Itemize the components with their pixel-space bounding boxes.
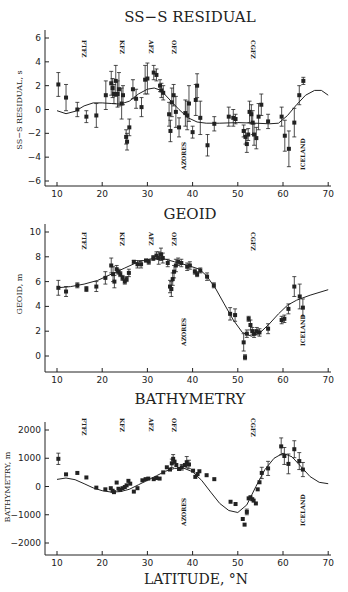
data-point [246, 133, 250, 137]
feature-label: KFZ [119, 418, 126, 432]
data-point [301, 306, 305, 310]
data-point [292, 121, 296, 125]
feature-label: CGFZ [250, 40, 257, 59]
data-point [241, 517, 245, 521]
feature-label: FTFZ [81, 418, 88, 436]
y-axis-label: SS−S RESIDUAL, s [15, 70, 24, 149]
feature-label: OFZ [171, 418, 178, 432]
data-point [292, 447, 296, 451]
data-point [161, 91, 165, 95]
y-tick-label: 0 [35, 351, 41, 361]
data-point [64, 290, 68, 294]
x-tick-label: 50 [232, 558, 244, 568]
feature-label: ICELAND [299, 494, 306, 526]
data-point [179, 261, 183, 265]
feature-label: AZORES [180, 318, 187, 347]
feature-label: CGFZ [250, 232, 257, 251]
x-tick-label: 40 [187, 189, 199, 199]
panel-title: GEOID [163, 205, 216, 223]
data-point [168, 129, 172, 133]
data-point [243, 523, 247, 527]
data-point [286, 462, 290, 466]
data-point [282, 317, 286, 321]
data-point [266, 119, 270, 123]
data-point [254, 501, 258, 505]
data-point [135, 262, 139, 266]
data-point [167, 112, 171, 116]
x-tick-label: 20 [96, 375, 108, 385]
data-point [266, 327, 270, 331]
data-point [170, 100, 174, 104]
data-point [56, 457, 60, 461]
data-point [229, 500, 233, 504]
feature-label: FTFZ [81, 40, 88, 58]
y-tick-label: 10 [30, 227, 42, 237]
data-point [103, 276, 107, 280]
x-tick-label: 20 [96, 189, 108, 199]
x-tick-label: 10 [51, 189, 63, 199]
figure: SS−S RESIDUAL SS−S RESIDUAL, s 6420−2−4−… [0, 0, 348, 592]
y-tick-label: −2000 [11, 538, 42, 548]
y-tick-label: 4 [35, 301, 41, 311]
data-point [260, 471, 264, 475]
data-point [157, 256, 161, 260]
x-tick-label: 40 [187, 375, 199, 385]
y-tick-label: 0 [35, 105, 41, 115]
data-point [125, 140, 129, 144]
x-tick-label: 30 [142, 189, 154, 199]
data-point [197, 469, 201, 473]
data-point [75, 108, 79, 112]
data-point [161, 256, 165, 260]
data-point [128, 482, 132, 486]
y-tick-label: 2 [35, 81, 41, 91]
x-tick-label: 10 [51, 375, 63, 385]
data-point [252, 133, 256, 137]
data-point [94, 285, 98, 289]
data-point [228, 312, 232, 316]
data-point [298, 294, 302, 298]
y-tick-label: 0 [35, 482, 41, 492]
data-point [127, 271, 131, 275]
y-tick-label: −1000 [11, 510, 42, 520]
x-axis-label: LATITUDE, °N [144, 571, 248, 587]
data-point [75, 471, 79, 475]
x-tick-label: 60 [277, 189, 289, 199]
data-point [248, 323, 252, 327]
data-point [112, 280, 116, 284]
data-point [227, 115, 231, 119]
data-point [104, 93, 108, 97]
feature-label: OFZ [171, 232, 178, 246]
x-tick-label: 60 [277, 558, 289, 568]
x-tick-label: 70 [322, 375, 334, 385]
data-point [254, 136, 258, 140]
data-point [245, 510, 249, 514]
y-tick-label: 4 [35, 57, 41, 67]
data-point [297, 459, 301, 463]
x-tick-label: 20 [96, 558, 108, 568]
data-point [234, 117, 238, 121]
data-point [245, 332, 249, 336]
x-tick-label: 50 [232, 375, 244, 385]
data-point [103, 487, 107, 491]
data-point [154, 73, 158, 77]
data-point [112, 490, 116, 494]
data-point [297, 93, 301, 97]
data-point [287, 147, 291, 151]
data-point [84, 287, 88, 291]
data-point [132, 490, 136, 494]
feature-label: FTFZ [81, 232, 88, 250]
data-point [177, 125, 181, 129]
data-point [205, 473, 209, 477]
x-tick-label: 30 [142, 375, 154, 385]
x-tick-label: 50 [232, 189, 244, 199]
data-point [233, 313, 237, 317]
data-point [212, 477, 216, 481]
data-point [140, 105, 144, 109]
data-point [282, 454, 286, 458]
x-tick-label: 40 [187, 558, 199, 568]
data-point [56, 82, 60, 86]
data-point [146, 477, 150, 481]
data-point [121, 93, 125, 97]
data-point [256, 487, 260, 491]
model-curve [57, 258, 328, 336]
